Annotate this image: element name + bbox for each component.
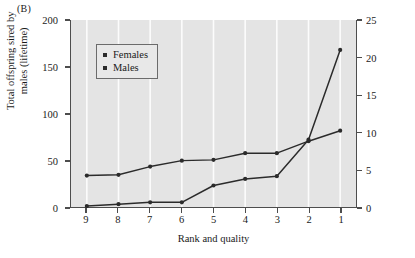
x-tick-6: 6 <box>172 214 192 225</box>
y-left-tick-200: 200 <box>26 15 58 26</box>
x-tick-4: 4 <box>235 214 255 225</box>
legend-item-label: Females <box>113 49 148 60</box>
y-right-tick-20: 20 <box>366 52 390 63</box>
y-right-tick-0-mark <box>357 207 362 208</box>
x-tick-8: 8 <box>108 214 128 225</box>
figure-panel-b: (B) 050100150200 0510152025 987654321 To… <box>0 0 415 258</box>
x-tick-5: 5 <box>204 214 224 225</box>
x-tick-9-mark <box>85 208 86 213</box>
legend-item-label: Males <box>113 62 139 73</box>
x-tick-1: 1 <box>331 214 351 225</box>
x-tick-1-mark <box>340 208 341 213</box>
x-tick-9: 9 <box>76 214 96 225</box>
y-left-tick-150: 150 <box>26 62 58 73</box>
y-left-tick-0-mark <box>65 207 70 208</box>
chart-legend: FemalesMales <box>96 44 158 79</box>
y-left-tick-200-mark <box>65 19 70 20</box>
y-left-tick-100-mark <box>65 113 70 114</box>
square-marker <box>103 66 107 70</box>
x-tick-7-mark <box>149 208 150 213</box>
y-right-tick-20-mark <box>357 57 362 58</box>
y-left-tick-50-mark <box>65 160 70 161</box>
x-tick-6-mark <box>181 208 182 213</box>
x-axis-title: Rank and quality <box>70 233 357 246</box>
y-axis-left-title: Total offspring sired by males (lifetime… <box>5 0 31 123</box>
square-marker <box>103 53 107 57</box>
legend-item-females[interactable]: Females <box>103 48 148 61</box>
y-right-tick-10-mark <box>357 132 362 133</box>
y-right-tick-25: 25 <box>366 15 390 26</box>
legend-item-males[interactable]: Males <box>103 61 148 74</box>
y-right-tick-10: 10 <box>366 127 390 138</box>
y-right-tick-25-mark <box>357 19 362 20</box>
y-left-tick-50: 50 <box>26 156 58 167</box>
y-right-tick-5-mark <box>357 170 362 171</box>
y-right-tick-15-mark <box>357 95 362 96</box>
x-tick-8-mark <box>117 208 118 213</box>
y-right-tick-5: 5 <box>366 165 390 176</box>
x-tick-2: 2 <box>299 214 319 225</box>
x-tick-3-mark <box>277 208 278 213</box>
x-tick-2-mark <box>309 208 310 213</box>
y-left-tick-100: 100 <box>26 109 58 120</box>
x-tick-5-mark <box>213 208 214 213</box>
x-tick-4-mark <box>245 208 246 213</box>
y-left-tick-150-mark <box>65 66 70 67</box>
y-right-tick-0: 0 <box>366 203 390 214</box>
x-tick-7: 7 <box>140 214 160 225</box>
y-left-tick-0: 0 <box>26 203 58 214</box>
y-right-tick-15: 15 <box>366 90 390 101</box>
x-tick-3: 3 <box>267 214 287 225</box>
